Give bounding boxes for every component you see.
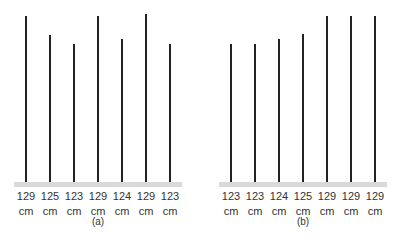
height-stick — [326, 16, 328, 182]
baseline-bar — [219, 182, 387, 187]
height-label: 124cm — [110, 190, 134, 218]
height-stick — [49, 35, 51, 182]
height-stick — [230, 44, 232, 182]
height-label: 129cm — [363, 190, 387, 218]
panel-caption: (b) — [283, 216, 323, 227]
height-stick — [302, 34, 304, 182]
height-label: 129cm — [339, 190, 363, 218]
height-label: 129cm — [14, 190, 38, 218]
height-label: 129cm — [86, 190, 110, 218]
height-label: 124cm — [267, 190, 291, 218]
height-label: 123cm — [219, 190, 243, 218]
height-stick — [374, 16, 376, 182]
height-stick — [97, 16, 99, 182]
height-label: 125cm — [291, 190, 315, 218]
height-label: 129cm — [315, 190, 339, 218]
height-label: 123cm — [158, 190, 182, 218]
height-stick — [25, 16, 27, 182]
height-stick — [254, 44, 256, 182]
height-stick — [278, 39, 280, 182]
height-label: 125cm — [38, 190, 62, 218]
height-stick — [145, 14, 147, 182]
height-label: 123cm — [62, 190, 86, 218]
baseline-bar — [14, 182, 182, 187]
height-stick — [73, 44, 75, 182]
height-stick — [169, 44, 171, 182]
panel-caption: (a) — [78, 216, 118, 227]
height-label: 129cm — [134, 190, 158, 218]
height-label: 123cm — [243, 190, 267, 218]
height-stick — [121, 39, 123, 182]
height-stick — [350, 16, 352, 182]
